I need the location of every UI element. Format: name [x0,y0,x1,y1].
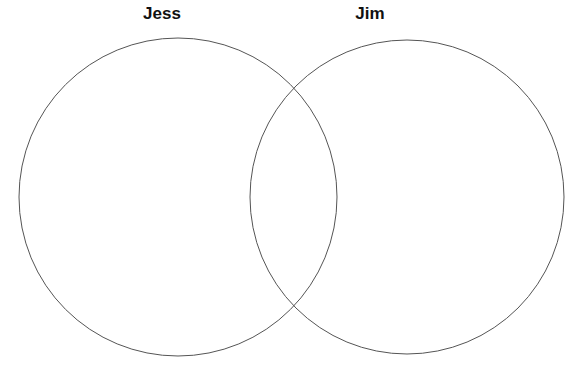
circle-jim [250,40,564,354]
venn-diagram [0,0,575,371]
circle-jess [19,38,337,356]
